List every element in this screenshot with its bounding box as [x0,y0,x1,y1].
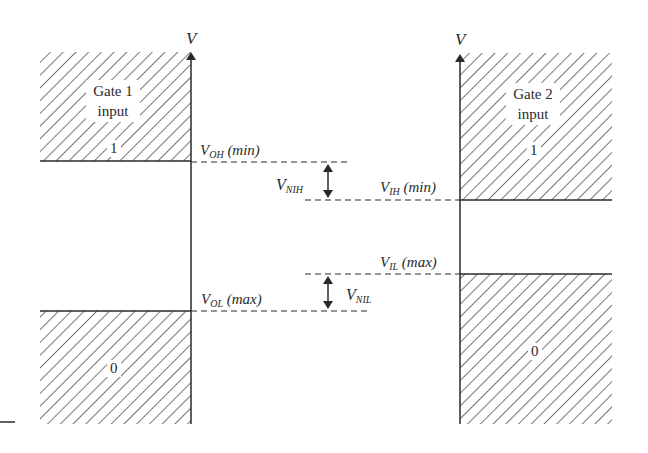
gate2-high-value: 1 [527,142,541,159]
gate1-high-value: 1 [107,140,121,157]
gate2-axis-label: V [455,31,465,48]
gate1-low-value: 0 [107,360,121,377]
gate1-title-line1: Gate 1 [89,81,137,101]
vih-min-label: VIH (min) [380,180,436,197]
gate2-low-value: 0 [528,343,542,360]
vnih-label: VNIH [276,177,303,195]
gate2-high-region [460,53,612,200]
voh-min-label: VOH (min) [200,143,260,160]
gate1-axis-label: V [186,30,196,47]
vnil-label: VNIL [346,287,371,305]
vol-max-label: VOL (max) [201,292,262,309]
vil-max-label: VIL (max) [380,255,437,272]
gate1-title: Gate 1 input [86,80,140,122]
gate2-title: Gate 2 input [506,83,560,125]
gate2-title-line1: Gate 2 [509,84,557,104]
gate2-title-line2: input [509,104,557,124]
gate1-title-line2: input [89,101,137,121]
noise-margin-diagram [0,0,648,453]
